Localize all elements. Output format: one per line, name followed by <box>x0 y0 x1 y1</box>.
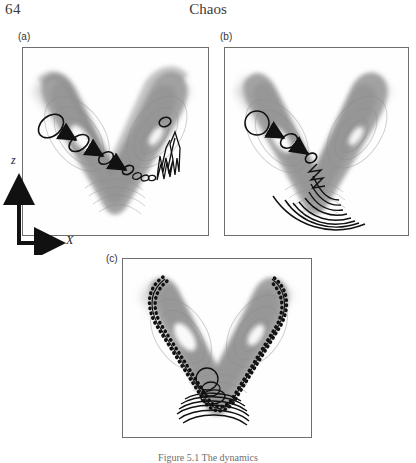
panel-b-plot <box>224 47 409 236</box>
attractor-plot-c <box>123 259 311 437</box>
z-axis-label: z <box>11 153 16 168</box>
attractor-density-b <box>244 73 388 215</box>
panel-c-plot <box>122 258 312 438</box>
x-axis-label: X <box>66 233 73 248</box>
panel-a-label: (a) <box>18 31 30 42</box>
panel-c-label: (c) <box>106 253 118 264</box>
panel-b-label: (b) <box>220 31 232 42</box>
running-title: Chaos <box>0 1 416 18</box>
attractor-plot-b <box>225 48 408 235</box>
axis-key: z X <box>2 155 80 255</box>
figure-caption: Figure 5.1 The dynamics <box>0 452 416 463</box>
